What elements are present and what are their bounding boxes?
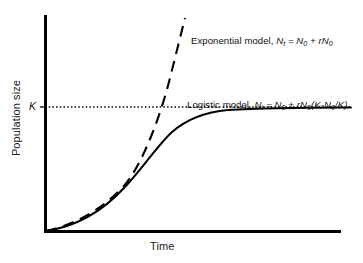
- y-axis-title: Population size: [10, 68, 22, 168]
- logistic-model-label-text: Logistic model,: [187, 99, 252, 110]
- x-axis-title: Time: [150, 240, 174, 252]
- exponential-model-label: Exponential model, Nt = N0 + rN0: [191, 35, 333, 46]
- exponential-model-label-text: Exponential model,: [191, 35, 274, 46]
- exponential-model-equation: Nt = N0 + rN0: [276, 35, 333, 46]
- logistic-model-label: Logistic model, Nt = N0 + rN0(K-N0/K): [187, 99, 347, 110]
- logistic-model-equation: Nt = N0 + rN0(K-N0/K): [254, 99, 347, 110]
- population-growth-chart: Population size Time K Exponential model…: [0, 0, 363, 263]
- logistic-model-curve: [46, 107, 351, 231]
- y-axis-tick-label-k: K: [29, 100, 36, 112]
- exponential-model-curve: [46, 18, 185, 231]
